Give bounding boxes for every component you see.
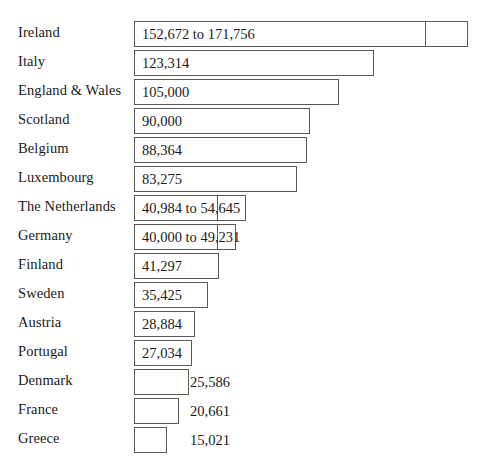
bar-range-divider: [425, 21, 426, 47]
chart-row: Scotland90,000: [0, 105, 486, 134]
chart-row: Italy123,314: [0, 47, 486, 76]
chart-row: Luxembourg83,275: [0, 163, 486, 192]
chart-row: Portugal27,034: [0, 337, 486, 366]
category-label: Ireland: [18, 18, 60, 47]
category-label: Germany: [18, 221, 73, 250]
bar: [134, 369, 189, 395]
bar-wrapper: [134, 195, 246, 221]
category-label: France: [18, 395, 58, 424]
bar-wrapper: [134, 311, 195, 337]
chart-row: England & Wales105,000: [0, 76, 486, 105]
bar: [134, 282, 208, 308]
bar: [134, 79, 339, 105]
category-label: Belgium: [18, 134, 69, 163]
bar-value-label: 15,021: [190, 427, 230, 453]
bar-range-divider: [217, 224, 218, 250]
chart-row: Belgium88,364: [0, 134, 486, 163]
bar-wrapper: [134, 224, 236, 250]
category-label: Italy: [18, 47, 45, 76]
chart-row: The Netherlands40,984 to 54,645: [0, 192, 486, 221]
chart-row: Ireland152,672 to 171,756: [0, 18, 486, 47]
bar-wrapper: [134, 166, 297, 192]
category-label: Austria: [18, 308, 61, 337]
category-label: Denmark: [18, 366, 73, 395]
bar: [134, 427, 167, 453]
chart-row: Austria28,884: [0, 308, 486, 337]
bar: [134, 21, 468, 47]
bar-value-label: 25,586: [190, 369, 230, 395]
bar-wrapper: [134, 137, 307, 163]
bar: [134, 253, 219, 279]
bar: [134, 137, 307, 163]
chart-row: Sweden35,425: [0, 279, 486, 308]
bar-value-label: 20,661: [190, 398, 230, 424]
bar-wrapper: [134, 79, 339, 105]
bar: [134, 166, 297, 192]
category-label: Finland: [18, 250, 63, 279]
bar-range-divider: [217, 195, 218, 221]
chart-row: Germany40,000 to 49,231: [0, 221, 486, 250]
category-label: Portugal: [18, 337, 68, 366]
category-label: The Netherlands: [18, 192, 116, 221]
category-label: Luxembourg: [18, 163, 94, 192]
bar-wrapper: [134, 21, 468, 47]
category-label: England & Wales: [18, 76, 121, 105]
bar: [134, 195, 246, 221]
chart-row: France20,661: [0, 395, 486, 424]
bar-wrapper: [134, 108, 310, 134]
category-label: Greece: [18, 424, 60, 453]
bar-wrapper: [134, 340, 192, 366]
bar-wrapper: [134, 282, 208, 308]
chart-row: Denmark25,586: [0, 366, 486, 395]
bar-wrapper: [134, 427, 167, 453]
horizontal-bar-chart: Ireland152,672 to 171,756Italy123,314Eng…: [0, 0, 486, 474]
bar: [134, 398, 179, 424]
bar: [134, 108, 310, 134]
category-label: Scotland: [18, 105, 70, 134]
bar: [134, 311, 195, 337]
bar-wrapper: [134, 369, 189, 395]
bar: [134, 340, 192, 366]
bar: [134, 50, 374, 76]
bar-wrapper: [134, 398, 179, 424]
bar: [134, 224, 236, 250]
bar-wrapper: [134, 50, 374, 76]
chart-row: Finland41,297: [0, 250, 486, 279]
chart-row: Greece15,021: [0, 424, 486, 453]
category-label: Sweden: [18, 279, 65, 308]
bar-wrapper: [134, 253, 219, 279]
